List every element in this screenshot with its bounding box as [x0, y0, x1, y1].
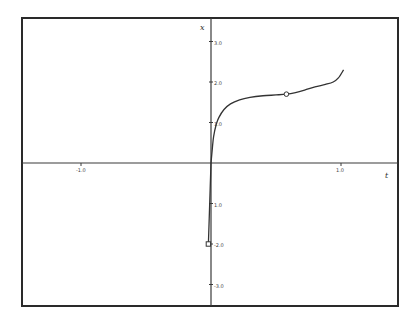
x-tick-label: -1.0: [76, 167, 86, 173]
y-tick-label: -2.0: [214, 242, 224, 248]
plot-frame: [22, 18, 398, 306]
y-axis-label: x: [200, 23, 205, 32]
x-tick-label: 1.0: [336, 167, 344, 173]
y-tick-label: 1.0: [214, 202, 222, 208]
y-tick-label: -3.0: [214, 283, 224, 289]
ticks: -1.01.03.02.01.01.0-2.0-3.0: [76, 40, 344, 289]
square-marker: [206, 242, 210, 246]
data-series: [208, 70, 343, 244]
x-axis-label: t: [385, 171, 389, 180]
curve-upper-branch: [211, 70, 344, 163]
y-tick-label: 1.0: [214, 121, 222, 127]
axes: [22, 18, 398, 306]
data-markers: [206, 92, 289, 246]
chart: -1.01.03.02.01.01.0-2.0-3.0 t x: [0, 0, 416, 324]
y-tick-label: 2.0: [214, 80, 222, 86]
circle-marker: [284, 92, 289, 97]
y-tick-label: 3.0: [214, 40, 222, 46]
